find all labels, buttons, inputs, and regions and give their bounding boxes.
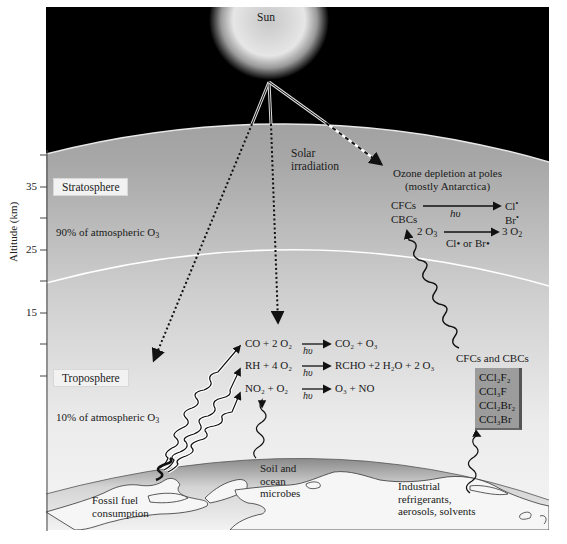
stratosphere-label: Stratosphere: [53, 178, 128, 196]
ozone-diagram: Sun Solar irradiation Altitude (km) 35 2…: [0, 0, 567, 544]
solar-irradiation-label: Solar irradiation: [291, 147, 339, 173]
reaction-no2-right: O₃ + NO: [335, 382, 374, 395]
source-fossil-fuel: Fossil fuel consumption: [92, 494, 149, 519]
reaction-rh-left: RH + 4 O₂: [245, 359, 292, 372]
reaction-no2-left: NO₂ + O₂: [245, 382, 288, 395]
reaction-co-left: CO + 2 O₂: [245, 337, 292, 350]
stratosphere-ozone-share: 90% of atmospheric O3: [56, 226, 159, 240]
reaction-co-catalyst: hυ: [303, 345, 313, 357]
ozone-depletion-title: Ozone depletion at poles (mostly Antarct…: [385, 167, 510, 192]
reactant-cbcs: CBCs: [391, 213, 417, 226]
tick-35: 35: [26, 180, 37, 192]
reactant-cfcs: CFCs: [391, 199, 416, 212]
source-soil-ocean: Soil and ocean microbes: [260, 462, 300, 500]
reaction-rh-right: RCHO +2 H₂O + 2 O₃: [335, 359, 434, 372]
tick-25: 25: [26, 243, 37, 255]
reaction-no2-catalyst: hυ: [303, 390, 313, 402]
reaction-rh-catalyst: hυ: [303, 367, 313, 379]
tick-15: 15: [26, 306, 37, 318]
altitude-axis-label: Altitude (km): [7, 202, 19, 262]
reaction2-left: 2 O3: [417, 225, 437, 239]
reaction-co-right: CO₂ + O₃: [335, 337, 378, 350]
sun-label: Sun: [257, 11, 275, 24]
cfc-compound-box: CCl₂F₂ CCl₃F CCl₂Br₂ CCl₃Br: [475, 368, 522, 430]
troposphere-label: Troposphere: [53, 369, 129, 387]
product-cl: Cl•: [505, 199, 518, 213]
cfc-section-title: CFCs and CBCs: [456, 352, 529, 365]
axis-ticks: [40, 155, 47, 376]
source-industrial: Industrial refrigerants, aerosols, solve…: [398, 480, 476, 518]
reaction2-right: 3 O2: [502, 225, 522, 239]
reaction2-catalyst: Cl• or Br•: [446, 237, 490, 250]
catalyst-hv: hυ: [450, 207, 461, 220]
troposphere-ozone-share: 10% of atmospheric O3: [56, 411, 159, 425]
